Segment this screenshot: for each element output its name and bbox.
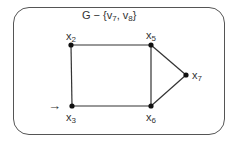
node-x5 (148, 42, 153, 47)
edge-x2-x3 (71, 45, 72, 106)
edge-x5-x7 (151, 45, 186, 75)
edge-x6-x7 (151, 75, 186, 106)
node-label-x2: x2 (66, 31, 76, 44)
node-label-x5: x5 (146, 30, 156, 43)
node-label-x6: x6 (146, 112, 156, 125)
node-x3 (69, 103, 74, 108)
node-label-x3: x3 (66, 112, 76, 125)
graph-nodes (68, 42, 188, 108)
start-arrow-icon: → (48, 99, 61, 112)
graph-edges (71, 45, 186, 106)
node-x7 (183, 72, 188, 77)
node-label-x7: x7 (192, 70, 202, 83)
node-x6 (148, 103, 153, 108)
